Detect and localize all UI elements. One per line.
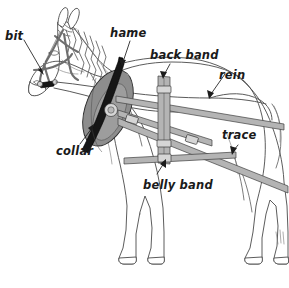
bit-ring — [37, 81, 42, 86]
back-band-buckle-upper — [157, 86, 171, 93]
bridle-highlight — [45, 32, 60, 62]
leader-line-bit — [24, 40, 42, 71]
label-hame: hame — [110, 28, 147, 40]
horse-ear-near — [68, 8, 79, 29]
horse-hooves — [119, 257, 289, 264]
label-trace: trace — [222, 130, 257, 142]
harness-diagram: bit hame back band rein trace collar bel… — [0, 0, 289, 288]
label-bit: bit — [5, 31, 23, 43]
leader-line-hame — [123, 41, 130, 62]
label-back-band: back band — [150, 50, 219, 62]
back-band-buckle-lower — [157, 140, 171, 147]
label-rein: rein — [219, 70, 245, 82]
label-belly-band: belly band — [143, 180, 213, 192]
label-collar: collar — [56, 146, 93, 158]
harness-diagram-illustration — [0, 0, 289, 288]
hame-draught-eye-inner — [108, 107, 114, 113]
